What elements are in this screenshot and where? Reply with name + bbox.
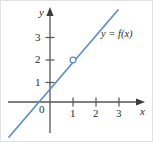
x-axis-label: x bbox=[140, 106, 145, 117]
open-circle-point bbox=[70, 57, 76, 63]
function-graph-figure: x y 0 1 2 3 1 2 3 y = f(x) bbox=[0, 0, 153, 142]
origin-label: 0 bbox=[39, 104, 45, 115]
x-tick-label-3: 3 bbox=[116, 108, 122, 119]
x-tick-label-1: 1 bbox=[70, 108, 76, 119]
y-axis-label: y bbox=[39, 7, 44, 18]
function-equation-label: y = f(x) bbox=[101, 29, 133, 40]
graph-canvas bbox=[0, 0, 153, 142]
y-tick-label-3: 3 bbox=[35, 32, 41, 43]
y-tick-label-2: 2 bbox=[35, 54, 41, 65]
y-tick-label-1: 1 bbox=[35, 77, 41, 88]
x-tick-label-2: 2 bbox=[93, 108, 99, 119]
